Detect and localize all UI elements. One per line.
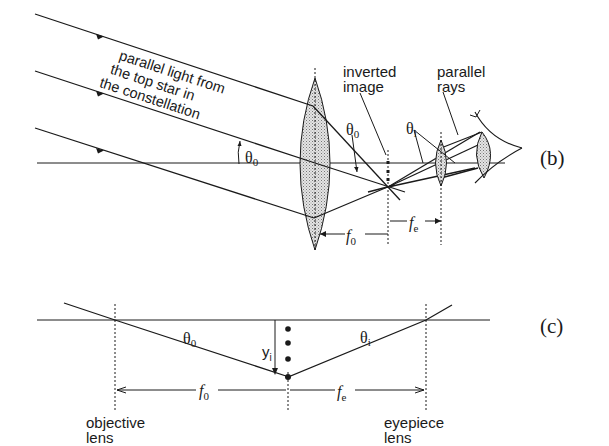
theta-i-label-c: θi [360, 329, 371, 348]
svg-text:lens: lens [86, 429, 114, 446]
f-e-label-c: fe [337, 383, 346, 403]
svg-text:lens: lens [384, 429, 412, 446]
panel-b [35, 14, 522, 252]
theta-o-label-left: θ0 [245, 149, 259, 168]
svg-text:rays: rays [437, 78, 465, 95]
ray-bottom [35, 128, 314, 218]
theta-i-label-b: θi [406, 120, 417, 139]
panel-c-tag: (c) [540, 314, 563, 338]
y-i-label: yi [262, 343, 272, 363]
f-e-label-b: fe [409, 214, 418, 234]
telescope-diagram: parallel light from the top star in the … [0, 0, 609, 446]
theta-o-label-b: θ0 [346, 121, 360, 140]
svg-text:image: image [343, 78, 384, 95]
eye-icon [470, 110, 522, 183]
f-o-label-c: f0 [199, 382, 209, 402]
f-o-label-b: f0 [346, 227, 356, 247]
cropped-text: ever ce [420, 243, 469, 260]
ray-c [64, 303, 452, 377]
theta-o-label-c: θ0 [183, 330, 197, 349]
image-dots-c [285, 326, 291, 380]
panel-b-tag: (b) [540, 146, 565, 170]
